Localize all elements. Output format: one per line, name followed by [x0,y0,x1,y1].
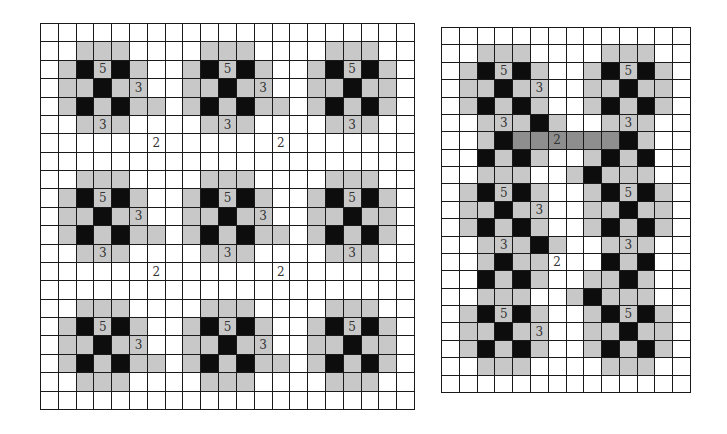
grid-cell [673,184,690,200]
grid-cell [326,42,343,59]
grid-cell [584,28,601,44]
grid-cell [59,79,76,96]
grid-cell [620,80,637,96]
grid-cell [379,116,396,133]
grid-cell [219,171,236,188]
grid-cell [673,306,690,322]
grid-cell [362,281,379,298]
grid-cell [59,42,76,59]
grid-cell [442,150,459,166]
grid-cell [478,323,495,339]
grid-cell [219,24,236,41]
grid-cell [201,61,218,78]
grid-cell: 3 [495,115,512,131]
grid-cell [513,341,530,357]
grid-cell [549,63,566,79]
grid-cell [77,392,94,409]
grid-cell [567,63,584,79]
grid-cell [397,355,414,372]
grid-cell [273,98,290,115]
grid-cell [255,24,272,41]
grid-cell [112,208,129,225]
grid-cell [655,254,672,270]
grid-cell [460,306,477,322]
grid-cell [166,355,183,372]
grid-cell [201,134,218,151]
grid-cell [59,153,76,170]
grid-cell [130,116,147,133]
grid-cell [379,61,396,78]
grid-cell [344,42,361,59]
grid-cell [148,24,165,41]
grid-cell [638,98,655,114]
grid-cell [237,134,254,151]
grid-cell [531,98,548,114]
grid-cell [397,79,414,96]
grid-cell [183,189,200,206]
grid-cell [344,134,361,151]
grid-cell [41,300,58,317]
grid-cell [602,358,619,374]
grid-cell [112,355,129,372]
grid-cell [567,150,584,166]
grid-cell [344,153,361,170]
grid-cell [478,150,495,166]
grid-cell [148,208,165,225]
grid-cell [495,358,512,374]
grid-cell [41,281,58,298]
grid-cell [638,132,655,148]
grid-cell [290,392,307,409]
grid-cell [638,63,655,79]
grid-cell [513,184,530,200]
grid-cell [638,254,655,270]
grid-cell [344,171,361,188]
grid-cell [655,219,672,235]
grid-cell [183,42,200,59]
grid-cell [513,323,530,339]
grid-cell [460,115,477,131]
grid-cell [41,134,58,151]
grid-cell: 3 [531,202,548,218]
grid-cell [326,134,343,151]
grid-cell [94,208,111,225]
grid-cell [478,28,495,44]
grid-cell [290,263,307,280]
grid-cell [460,358,477,374]
grid-cell [326,153,343,170]
grid-cell [495,98,512,114]
grid-cell [255,318,272,335]
grid-cell: 3 [620,237,637,253]
grid-cell [112,153,129,170]
grid-cell [655,115,672,131]
grid-cell [344,24,361,41]
grid-cell [237,153,254,170]
grid-cell [77,61,94,78]
grid-cell [308,189,325,206]
grid-cell [273,373,290,390]
grid-cell [41,355,58,372]
grid-cell [478,289,495,305]
grid-cell [94,171,111,188]
grid-cell [478,63,495,79]
grid-cell [201,373,218,390]
grid-cell [130,318,147,335]
grid-cell [460,184,477,200]
grid-cell [290,98,307,115]
grid-cell [183,226,200,243]
grid-cell [77,336,94,353]
grid-cell [584,376,601,392]
grid-cell [362,392,379,409]
grid-cell [148,245,165,262]
grid-cell: 5 [219,189,236,206]
grid-cell [513,45,530,61]
grid-cell [59,281,76,298]
grid-cell [567,80,584,96]
grid-cell [638,237,655,253]
grid-cell [620,98,637,114]
grid-cell [567,202,584,218]
grid-cell [326,189,343,206]
grid-cell [379,355,396,372]
grid-cell [326,61,343,78]
grid-cell [478,45,495,61]
grid-cell [344,263,361,280]
